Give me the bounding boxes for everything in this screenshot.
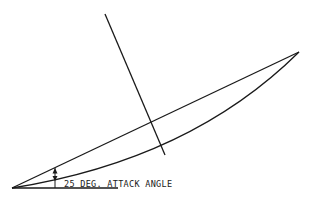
attack-angle-label: 25 DEG. ATTACK ANGLE: [64, 179, 172, 189]
attack-angle-diagram: [0, 0, 310, 197]
normal-force-line: [105, 14, 165, 155]
upper-chord-line: [12, 52, 299, 188]
